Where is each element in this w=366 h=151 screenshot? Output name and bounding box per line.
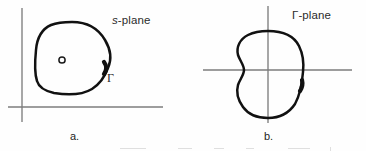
panel-b-group [203, 6, 352, 123]
figure-root: s-plane Γ-plane Γ a. b. [0, 0, 366, 151]
panel-b-direction-arrowhead [300, 80, 302, 91]
panel-b-caption: b. [264, 131, 273, 142]
scan-artifact [214, 148, 224, 149]
scan-artifact [178, 148, 192, 149]
scan-artifact [330, 147, 331, 151]
panel-b-plane-label-suffix: -plane [298, 9, 331, 21]
panel-a-direction-arrowhead [104, 62, 106, 74]
panel-a-plane-label: s-plane [112, 15, 150, 27]
scan-artifact [120, 148, 146, 149]
panel-a-plane-label-suffix: -plane [118, 14, 151, 26]
figure-canvas [0, 0, 366, 151]
panel-a-contour-label: Γ [107, 72, 114, 84]
panel-a-contour-gamma [35, 22, 110, 94]
scan-artifact [288, 148, 310, 149]
panel-b-plane-label: Γ-plane [292, 10, 331, 22]
panel-a-caption: a. [70, 131, 79, 142]
panel-a-pole-marker-icon [59, 57, 65, 63]
scan-artifact [246, 148, 254, 149]
panel-b-contour-gamma-image [237, 31, 303, 118]
